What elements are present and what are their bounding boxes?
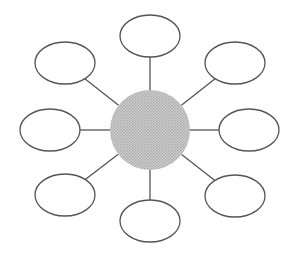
node-ellipse-upper-left — [35, 42, 95, 84]
node-ellipse-left — [20, 109, 80, 151]
connector-line-upper-left — [85, 79, 119, 106]
node-ellipse-bottom — [120, 200, 180, 242]
bubble-map-diagram — [0, 0, 293, 255]
node-ellipse-right — [219, 109, 279, 151]
node-ellipse-lower-left — [35, 174, 95, 216]
node-ellipse-top — [120, 15, 180, 57]
central-hub — [110, 90, 190, 170]
connector-line-lower-right — [182, 155, 215, 181]
connector-line-upper-right — [181, 79, 215, 106]
central-circle — [110, 90, 190, 170]
connector-line-lower-left — [85, 154, 118, 179]
bubble-map-canvas — [0, 0, 293, 255]
node-ellipse-upper-right — [205, 42, 265, 84]
node-ellipse-lower-right — [205, 175, 265, 217]
